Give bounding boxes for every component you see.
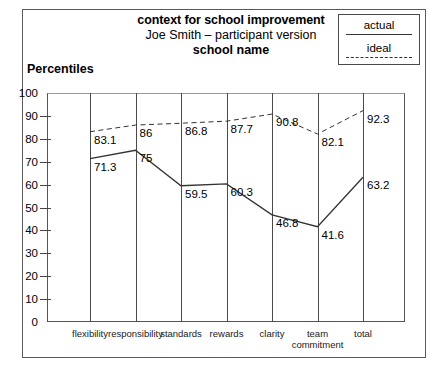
x-axis-label-rewards: rewards	[210, 328, 244, 339]
data-label-actual-standards: 59.5	[185, 188, 207, 200]
data-label-actual-rewards: 60.3	[231, 186, 253, 198]
chart-subtitle-secondary: school name	[120, 43, 342, 58]
data-label-actual-flexibility: 71.3	[94, 161, 116, 173]
series-lines	[47, 93, 405, 322]
data-label-actual-total: 63.2	[367, 179, 389, 191]
data-label-ideal-rewards: 87.7	[231, 123, 253, 135]
data-label-actual-team-commitment: 41.6	[322, 229, 344, 241]
y-tick-label: 60	[25, 179, 38, 191]
y-tick-label: 30	[25, 247, 38, 259]
plot-area: 0102030405060708090100 71.37559.560.346.…	[47, 93, 405, 322]
chart-legend: actual ideal	[338, 14, 420, 65]
data-label-actual-responsibility: 75	[140, 152, 153, 164]
legend-item-ideal: ideal	[339, 41, 419, 58]
y-tick-label: 50	[25, 202, 38, 214]
legend-swatch-actual-solid-line	[346, 34, 412, 35]
data-label-actual-clarity: 46.8	[276, 217, 298, 229]
legend-label-actual: actual	[339, 18, 419, 32]
chart-subtitle: Joe Smith – participant version	[120, 28, 342, 43]
x-axis-label-flexibility: flexibility	[72, 328, 108, 339]
series-line-actual	[90, 150, 363, 226]
x-axis-label-responsibility: responsibility	[108, 328, 163, 339]
page-title: context for school improvement	[120, 13, 342, 28]
legend-label-ideal: ideal	[339, 41, 419, 55]
series-line-ideal	[90, 111, 363, 134]
x-axis-label-total: total	[354, 328, 372, 339]
chart-title-block: context for school improvement Joe Smith…	[120, 13, 342, 58]
y-tick-label: 90	[25, 110, 38, 122]
x-axis-label-standards: standards	[160, 328, 202, 339]
y-tick-label: 80	[25, 133, 38, 145]
data-label-ideal-team-commitment: 82.1	[322, 136, 344, 148]
y-tick-label: 100	[19, 87, 38, 99]
x-axis-label-clarity: clarity	[260, 328, 285, 339]
data-label-ideal-responsibility: 86	[140, 127, 153, 139]
y-tick-label: 10	[25, 293, 38, 305]
y-tick-label: 0	[32, 316, 38, 328]
legend-swatch-ideal-dashed-line	[346, 57, 412, 58]
y-tick-label: 20	[25, 270, 38, 282]
data-label-ideal-flexibility: 83.1	[94, 134, 116, 146]
y-axis-title: Percentiles	[27, 62, 94, 76]
chart-figure: context for school improvement Joe Smith…	[0, 0, 435, 377]
y-tick-label: 40	[25, 224, 38, 236]
x-axis-label-team-commitment: team commitment	[292, 328, 344, 350]
legend-item-actual: actual	[339, 18, 419, 35]
data-label-ideal-standards: 86.8	[185, 125, 207, 137]
y-tick-label: 70	[25, 156, 38, 168]
data-label-ideal-total: 92.3	[367, 113, 389, 125]
data-label-ideal-clarity: 90.8	[276, 116, 298, 128]
